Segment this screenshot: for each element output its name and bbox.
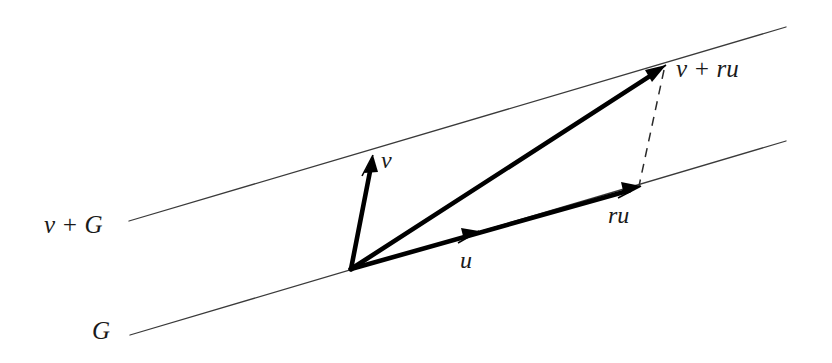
vector-ru [351, 182, 641, 269]
vector-v-shaft [351, 165, 371, 269]
label-subgroup-line: G [92, 318, 110, 343]
vector-v-plus-ru-barb [641, 65, 666, 83]
label-vector-ru: ru [608, 203, 629, 227]
vector-ru-arrowhead [621, 182, 641, 195]
vector-v-plus-ru [351, 65, 666, 269]
vector-ru-shaft [351, 190, 629, 269]
vector-v-plus-ru-shaft [351, 72, 656, 269]
label-vector-u: u [460, 248, 472, 272]
label-coset-line: v + G [44, 212, 103, 237]
label-vector-v: v [381, 148, 392, 172]
origin-vertex [348, 266, 353, 271]
vector-diagram-figure: v + G G v u ru v + ru [0, 0, 832, 363]
dashed-translate-connector [639, 70, 664, 186]
label-vector-v-plus-ru: v + ru [676, 56, 739, 81]
